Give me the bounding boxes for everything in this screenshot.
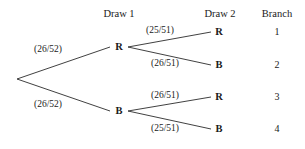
node-draw2-black-red: R xyxy=(215,92,223,103)
edge-root-to-r xyxy=(17,47,110,79)
edge-group-level2 xyxy=(128,32,211,129)
edge-group-level1 xyxy=(17,47,110,111)
branch-number-2: 2 xyxy=(275,60,280,70)
probability-label-draw2-red-black: (26/51) xyxy=(151,59,179,69)
node-draw1-black: B xyxy=(115,106,122,117)
edge-root-to-b xyxy=(17,79,110,111)
probability-label-draw2-black-red: (26/51) xyxy=(151,91,179,101)
node-draw2-red-red: R xyxy=(215,27,223,38)
probability-label-draw1-red: (26/52) xyxy=(34,45,62,55)
node-draw2-red-black: B xyxy=(215,60,222,71)
node-draw2-black-black: B xyxy=(215,124,222,135)
node-draw1-red: R xyxy=(115,42,123,53)
column-header-branch: Branch xyxy=(262,9,292,20)
column-header-draw-2: Draw 2 xyxy=(204,9,235,20)
column-header-draw-1: Draw 1 xyxy=(103,9,134,20)
branch-number-3: 3 xyxy=(275,92,280,102)
probability-label-draw2-red-red: (25/51) xyxy=(146,26,174,36)
probability-tree-diagram: Draw 1 Draw 2 Branch R B (26/52) (26/52)… xyxy=(0,0,305,149)
probability-label-draw2-black-black: (25/51) xyxy=(151,124,179,134)
branch-number-4: 4 xyxy=(275,124,280,134)
branch-number-1: 1 xyxy=(275,27,280,37)
probability-label-draw1-black: (26/52) xyxy=(34,100,62,110)
